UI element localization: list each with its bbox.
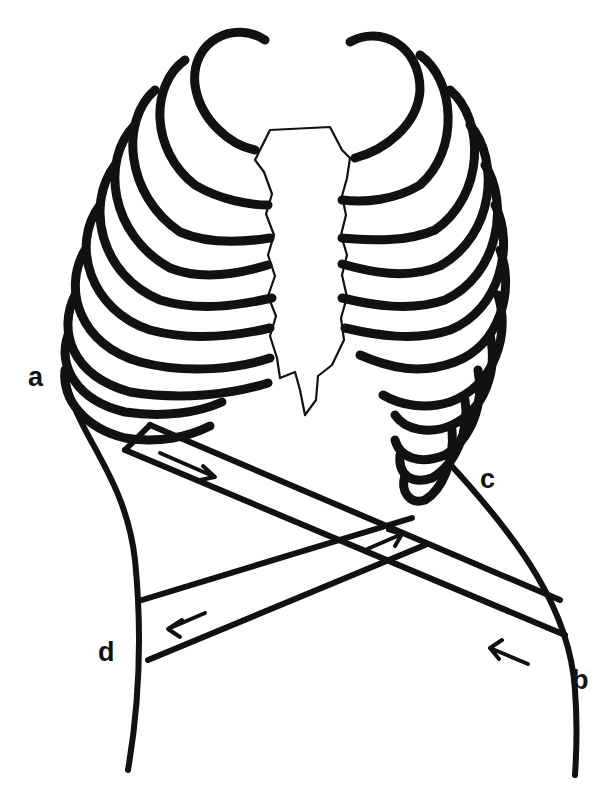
label-b: b [572,667,589,694]
sternum [255,127,350,415]
left-ribs [65,32,272,440]
strap-c-to-d [142,518,425,660]
label-c: c [480,466,495,493]
strap-a-to-b [125,425,565,635]
label-a: a [28,364,43,391]
right-ribs [342,36,506,501]
arrow-left-icon [168,613,205,637]
arrow-left-up-icon [490,640,528,664]
torso-right-outline [448,462,577,775]
rib-cage-diagram [0,0,609,799]
label-d: d [98,639,115,666]
